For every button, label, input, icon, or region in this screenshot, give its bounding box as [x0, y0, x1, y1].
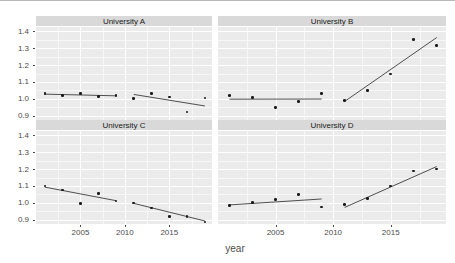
trend-line-group	[218, 27, 446, 120]
data-point	[343, 203, 346, 206]
y-axis-tick-mark	[33, 31, 35, 32]
y-axis-tick-mark	[33, 152, 35, 153]
data-point	[97, 95, 100, 98]
x-axis-tick-mark	[391, 225, 392, 227]
x-axis-tick-label: 2005	[263, 228, 289, 237]
data-point	[274, 106, 277, 109]
data-point	[61, 189, 64, 192]
facet-strip-university-c: University C	[36, 120, 212, 130]
facet-panel-university-a	[36, 27, 212, 120]
x-axis-tick-label: 2005	[67, 228, 93, 237]
y-axis-tick-label: 1.1	[13, 181, 29, 190]
data-point	[274, 198, 277, 201]
y-axis-tick-label: 1.4	[13, 131, 29, 140]
data-point	[412, 38, 415, 41]
data-point	[228, 204, 231, 207]
y-axis-tick-label: 1.2	[13, 165, 29, 174]
data-point	[366, 89, 369, 92]
trend-line-group	[218, 131, 446, 224]
facet-panel-university-b	[218, 27, 446, 120]
x-axis-label: year	[0, 243, 455, 254]
y-axis-tick-mark	[33, 203, 35, 204]
facet-panel-university-c	[36, 131, 212, 224]
y-axis-tick-mark	[33, 169, 35, 170]
data-point	[297, 100, 300, 103]
y-axis-tick-label: 0.9	[13, 215, 29, 224]
data-point	[168, 96, 171, 99]
y-axis-tick-mark	[33, 82, 35, 83]
x-axis-tick-mark	[80, 225, 81, 227]
x-axis-tick-label: 2015	[156, 228, 182, 237]
trend-line-post	[345, 37, 437, 101]
x-axis-tick-label: 2010	[112, 228, 138, 237]
data-point	[97, 192, 100, 195]
chart-figure: cum_change_composite year University A U…	[0, 0, 455, 263]
y-axis-tick-label: 1.3	[13, 148, 29, 157]
top-border-line	[0, 0, 455, 1]
x-axis-tick-mark	[125, 225, 126, 227]
y-axis-tick-mark	[33, 65, 35, 66]
data-point	[79, 202, 82, 205]
y-axis-tick-mark	[33, 135, 35, 136]
y-axis-tick-mark	[33, 220, 35, 221]
x-axis-tick-mark	[333, 225, 334, 227]
trend-line-group	[36, 27, 212, 120]
y-axis-tick-label: 1.0	[13, 94, 29, 103]
x-axis-tick-mark	[276, 225, 277, 227]
facet-title-d: University D	[310, 121, 353, 130]
data-point	[251, 201, 254, 204]
x-axis-tick-mark	[169, 225, 170, 227]
trend-line-group	[36, 131, 212, 224]
trend-line-post	[134, 203, 205, 221]
data-point	[61, 94, 64, 97]
y-axis-tick-label: 0.9	[13, 111, 29, 120]
y-axis-tick-label: 1.0	[13, 198, 29, 207]
data-point	[320, 206, 323, 209]
y-axis-tick-label: 1.2	[13, 61, 29, 70]
y-axis-tick-mark	[33, 48, 35, 49]
data-point	[251, 96, 254, 99]
data-point	[168, 215, 171, 218]
data-point	[150, 92, 153, 95]
y-axis-tick-mark	[33, 186, 35, 187]
y-axis-tick-label: 1.1	[13, 77, 29, 86]
facet-title-a: University A	[103, 17, 145, 26]
facet-strip-university-a: University A	[36, 16, 212, 26]
y-axis-tick-label: 1.4	[13, 27, 29, 36]
data-point	[320, 92, 323, 95]
data-point	[297, 193, 300, 196]
data-point	[343, 99, 346, 102]
facet-title-c: University C	[102, 121, 145, 130]
x-axis-tick-label: 2015	[378, 228, 404, 237]
y-axis-tick-mark	[33, 116, 35, 117]
y-axis-tick-mark	[33, 99, 35, 100]
data-point	[228, 94, 231, 97]
facet-title-b: University B	[311, 17, 354, 26]
facet-panel-university-d	[218, 131, 446, 224]
data-point	[44, 92, 47, 95]
trend-line-pre	[45, 187, 116, 201]
data-point	[79, 92, 82, 95]
x-axis-tick-label: 2010	[320, 228, 346, 237]
y-axis-tick-label: 1.3	[13, 44, 29, 53]
facet-strip-university-d: University D	[218, 120, 446, 130]
data-point	[435, 44, 438, 47]
facet-strip-university-b: University B	[218, 16, 446, 26]
data-point	[366, 197, 369, 200]
